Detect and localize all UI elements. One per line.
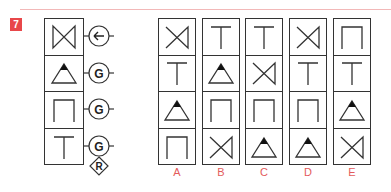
option-label-e[interactable]: E [333,166,371,178]
svg-text:G: G [94,103,103,117]
r-operator-icon: R [90,157,108,175]
option-cell-tee [203,19,239,56]
triangle-icon [206,59,236,87]
x-bowtie-icon [49,23,79,51]
option-cell-arch [159,129,195,166]
tee-icon [293,59,323,87]
option-label-d[interactable]: D [289,166,327,178]
svg-text:R: R [95,161,103,172]
g-operator-icon: G [84,99,114,119]
g-operator-icon: G [84,63,114,83]
sequence-cell-x [45,19,83,56]
option-column-a[interactable] [158,18,196,165]
x-bowtie-right-icon [337,133,367,161]
triangle-icon [249,133,279,161]
option-label-a[interactable]: A [158,166,196,178]
x-bowtie-right-icon [249,59,279,87]
question-number-badge: 7 [10,18,22,31]
option-label-c[interactable]: C [245,166,283,178]
option-cell-x-bowtie-right [290,19,326,56]
option-cell-triangle [203,56,239,93]
arch-icon [337,23,367,51]
option-cell-tee [246,19,282,56]
sequence-column [44,18,84,165]
header-divider [20,9,391,10]
tee-icon [162,59,192,87]
x-bowtie-right-icon [162,23,192,51]
option-cell-arch [203,92,239,129]
triangle-icon [337,96,367,124]
arch-icon [206,96,236,124]
option-cell-x-bowtie-right [334,129,370,166]
option-cell-x-bowtie-right [203,129,239,166]
operator-chain: G G G R [84,18,124,192]
triangle-icon [162,96,192,124]
option-cell-arch [246,92,282,129]
option-cell-triangle [159,92,195,129]
x-bowtie-right-icon [206,133,236,161]
option-column-d[interactable] [289,18,327,165]
option-column-b[interactable] [202,18,240,165]
arch-icon [162,133,192,161]
triangle-icon [293,133,323,161]
option-column-c[interactable] [245,18,283,165]
arch-icon [249,96,279,124]
option-cell-triangle [246,129,282,166]
option-cell-tee [290,56,326,93]
option-cell-x-bowtie-right [246,56,282,93]
option-cell-tee [334,56,370,93]
option-cell-x-bowtie-right [159,19,195,56]
sequence-cell-arch [45,92,83,129]
g-operator-icon: G [84,136,114,156]
option-cell-triangle [290,129,326,166]
tee-icon [49,133,79,161]
tee-icon [249,23,279,51]
tee-icon [337,59,367,87]
option-cell-arch [290,92,326,129]
svg-text:G: G [94,140,103,154]
tee-icon [206,23,236,51]
arch-icon [49,96,79,124]
option-cell-arch [334,19,370,56]
option-column-e[interactable] [333,18,371,165]
arch-icon [293,96,323,124]
x-bowtie-right-icon [293,23,323,51]
sequence-cell-tee [45,129,83,166]
option-label-b[interactable]: B [202,166,240,178]
left-arrow-operator-icon [84,26,114,46]
triangle-icon [49,59,79,87]
svg-text:G: G [94,67,103,81]
option-cell-triangle [334,92,370,129]
sequence-cell-triangle [45,56,83,93]
option-cell-tee [159,56,195,93]
